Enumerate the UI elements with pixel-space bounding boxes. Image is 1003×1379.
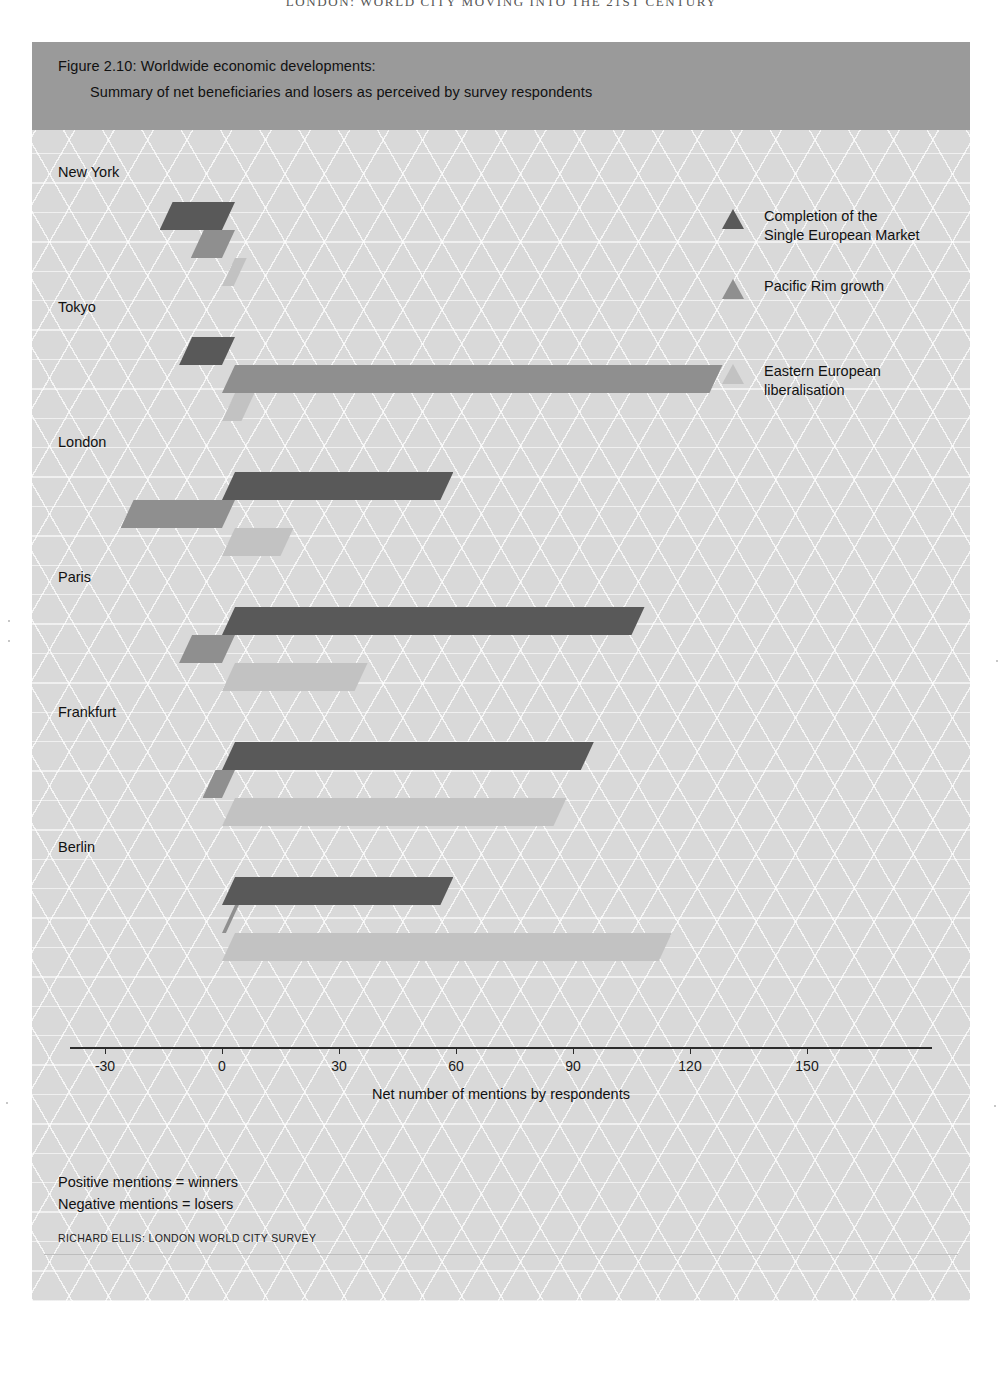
x-tick [456,1047,457,1054]
category-label: Paris [58,569,91,585]
x-tick [573,1047,574,1054]
x-tick-label: 120 [678,1058,701,1074]
figure-title-line-2: Summary of net beneficiaries and losers … [90,84,592,100]
x-axis-title: Net number of mentions by respondents [32,1086,970,1102]
x-axis-line [70,1047,932,1049]
x-tick-label: 150 [795,1058,818,1074]
bar-paris-series-2 [222,663,368,691]
bar-paris-series-0 [222,607,645,635]
bar-london-series-1 [121,500,235,528]
bar-berlin-series-0 [222,877,453,905]
bar-paris-series-1 [179,635,235,663]
bar-frankfurt-series-2 [222,798,567,826]
bar-frankfurt-series-1 [203,770,236,798]
bar-berlin-series-1 [222,905,239,933]
x-tick [807,1047,808,1054]
x-tick-label: 90 [565,1058,581,1074]
triangle-up-icon [722,364,744,384]
running-header: LONDON: WORLD CITY MOVING INTO THE 21ST … [0,0,1003,8]
page-speckle [8,640,10,642]
legend-label-0-line2: Single European Market [764,226,920,245]
x-tick-label: 0 [218,1058,226,1074]
page-speckle [996,660,998,662]
figure-title-line-1: Figure 2.10: Worldwide economic developm… [58,58,376,74]
x-tick [690,1047,691,1054]
triangle-up-icon [722,279,744,299]
x-tick-label: 60 [448,1058,464,1074]
x-tick [339,1047,340,1054]
panel-bottom-rule [44,1254,958,1255]
bar-tokyo-series-0 [179,337,235,365]
plot-area: New YorkTokyoLondonParisFrankfurtBerlin … [32,130,970,1301]
legend-label-1-line1: Pacific Rim growth [764,277,884,296]
x-tick-label: 30 [331,1058,347,1074]
legend-label-0-line1: Completion of the [764,207,878,226]
bar-new-york-series-0 [160,202,235,230]
triangle-up-icon [722,209,744,229]
source-credit: RICHARD ELLIS: LONDON WORLD CITY SURVEY [58,1232,316,1244]
bar-frankfurt-series-0 [222,742,594,770]
category-label: Frankfurt [58,704,116,720]
page-speckle [6,1102,8,1104]
legend-label-2-line2: liberalisation [764,381,845,400]
x-tick-label: -30 [95,1058,115,1074]
bar-london-series-0 [222,472,453,500]
bar-new-york-series-1 [191,230,235,258]
legend-label-2-line1: Eastern European [764,362,881,381]
bar-berlin-series-2 [222,933,672,961]
bar-new-york-series-2 [222,258,247,286]
x-tick [105,1047,106,1054]
note-positive: Positive mentions = winners [58,1174,238,1190]
x-tick [222,1047,223,1054]
bar-tokyo-series-2 [222,393,255,421]
figure-panel: Figure 2.10: Worldwide economic developm… [32,42,970,1301]
note-negative: Negative mentions = losers [58,1196,233,1212]
page-speckle [8,620,10,622]
bar-london-series-2 [222,528,294,556]
bar-tokyo-series-1 [222,365,723,393]
page-speckle [994,1105,996,1107]
category-label: London [58,434,106,450]
category-label: Tokyo [58,299,96,315]
category-label: New York [58,164,119,180]
category-label: Berlin [58,839,95,855]
